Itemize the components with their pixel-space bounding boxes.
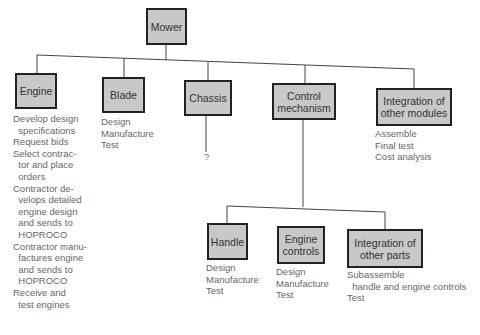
node-control-mechanism: Control mechanism	[272, 83, 336, 120]
blade-tasks: Design Manufacture Test	[101, 116, 154, 151]
engine-tasks: Develop design specifications Request bi…	[13, 113, 87, 310]
engine-controls-tasks: Design Manufacture Test	[276, 266, 329, 301]
node-chassis: Chassis	[184, 80, 232, 116]
chassis-tasks: ?	[204, 151, 209, 163]
node-engine-controls: Engine controls	[277, 226, 325, 264]
node-integration-modules: Integration of other modules	[376, 88, 452, 126]
node-mower: Mower	[146, 8, 187, 45]
node-integration-parts: Integration of other parts	[347, 229, 423, 268]
node-engine: Engine	[15, 73, 57, 109]
node-blade: Blade	[102, 77, 145, 113]
node-handle: Handle	[207, 223, 248, 260]
handle-tasks: Design Manufacture Test	[206, 262, 259, 297]
integration-modules-tasks: Assemble Final test Cost analysis	[375, 128, 432, 163]
integration-parts-tasks: Subassemble handle and engine controls T…	[347, 269, 466, 304]
